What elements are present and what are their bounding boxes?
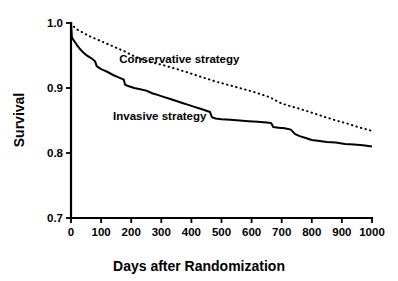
y-tick-label: 1.0 bbox=[47, 17, 63, 29]
x-tick-label: 800 bbox=[302, 226, 321, 238]
x-axis-title: Days after Randomization bbox=[113, 258, 285, 274]
survival-chart-figure: 0.70.80.91.0 010020030040050060070080090… bbox=[0, 0, 398, 281]
x-tick-label: 300 bbox=[152, 226, 171, 238]
series-annotation: Conservative strategy bbox=[119, 53, 240, 65]
y-tick-label: 0.7 bbox=[47, 212, 63, 224]
x-tick-label: 400 bbox=[182, 226, 201, 238]
x-tick-label: 200 bbox=[122, 226, 141, 238]
curve-invasive-strategy bbox=[71, 23, 372, 147]
y-tick-label: 0.8 bbox=[47, 147, 64, 159]
series-annotation: Invasive strategy bbox=[113, 110, 207, 122]
x-axis-tick-labels: 01002003004005006007008009001000 bbox=[68, 226, 385, 238]
x-tick-label: 100 bbox=[92, 226, 111, 238]
y-axis-tick-labels: 0.70.80.91.0 bbox=[47, 17, 64, 224]
series-curves bbox=[71, 23, 372, 147]
kaplan-meier-plot: 0.70.80.91.0 010020030040050060070080090… bbox=[0, 0, 398, 281]
y-tick-label: 0.9 bbox=[47, 82, 63, 94]
x-tick-label: 700 bbox=[272, 226, 291, 238]
x-tick-label: 500 bbox=[212, 226, 231, 238]
x-tick-label: 600 bbox=[242, 226, 261, 238]
y-axis-title: Survival bbox=[11, 93, 27, 147]
x-tick-label: 0 bbox=[68, 226, 74, 238]
x-tick-label: 900 bbox=[332, 226, 351, 238]
x-tick-label: 1000 bbox=[359, 226, 385, 238]
